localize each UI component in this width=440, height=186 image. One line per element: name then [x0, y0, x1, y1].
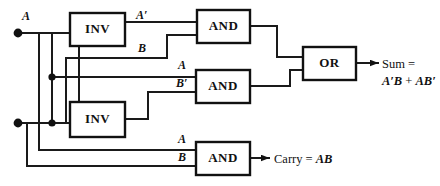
- carry-output-label: Carry = AB: [274, 151, 332, 168]
- sum-expr-a: A′B: [382, 74, 402, 88]
- junction-dot-a-middle: [48, 73, 55, 80]
- inv-bottom-label: INV: [85, 111, 110, 126]
- and-top-label: AND: [209, 18, 238, 33]
- wire-and-middle-to-or: [250, 70, 303, 86]
- signal-label-a-bottom: A: [178, 133, 186, 145]
- signal-label-b-not-middle: B′: [176, 77, 187, 89]
- carry-output-text: Carry =: [274, 152, 313, 166]
- and-middle-label: AND: [208, 78, 237, 93]
- sum-expr-plus: +: [405, 74, 412, 88]
- sum-output-line2: A′B + AB′: [382, 73, 436, 90]
- logic-circuit-diagram: INV INV AND AND AND OR A A′ B A B′ A B S…: [0, 0, 440, 186]
- circuit-svg: INV INV AND AND AND OR: [0, 0, 440, 186]
- input-a-label: A: [22, 10, 30, 22]
- signal-label-b-top: B: [138, 42, 146, 54]
- or-gate-label: OR: [319, 55, 340, 70]
- signal-label-a-not-top: A′: [136, 9, 147, 21]
- carry-output-expr: AB: [316, 152, 333, 166]
- wire-and-top-to-or: [250, 26, 303, 57]
- signal-label-b-bottom: B: [178, 151, 186, 163]
- sum-expr-b: AB′: [416, 74, 436, 88]
- wire-inv-bottom-out-to-and-middle: [125, 92, 196, 119]
- signal-label-a-middle: A: [178, 59, 186, 71]
- junction-dot-a-bottom: [48, 119, 55, 126]
- and-bottom-label: AND: [208, 150, 237, 165]
- sum-output-label: Sum = A′B + AB′: [382, 56, 436, 90]
- inv-top-label: INV: [85, 21, 110, 36]
- sum-output-line1: Sum =: [382, 56, 436, 73]
- input-b-terminal[interactable]: [14, 119, 23, 128]
- input-a-terminal[interactable]: [14, 29, 23, 38]
